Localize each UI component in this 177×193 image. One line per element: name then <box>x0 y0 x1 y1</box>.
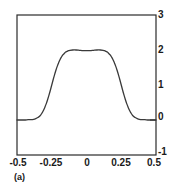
y-tick-label-3: 3 <box>158 10 164 20</box>
x-tick-label-0-5: 0.5 <box>134 158 174 168</box>
y-tick-label-0: 0 <box>158 112 164 122</box>
figure-caption: (a) <box>14 173 25 182</box>
figure-panel: 3 2 1 0 -1 -0.5 -0.25 0 0.25 0.5 (a) <box>0 0 177 193</box>
plot-frame <box>17 15 156 155</box>
y-tick-label-1: 1 <box>158 80 164 90</box>
y-tick-label-neg1: -1 <box>158 147 167 157</box>
y-tick-label-2: 2 <box>158 45 164 55</box>
x-tick-label-neg0-25: -0.25 <box>31 158 71 168</box>
